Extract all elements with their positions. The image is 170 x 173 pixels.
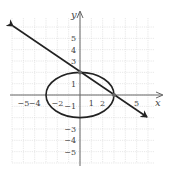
svg-text:−4: −4 [64,136,76,145]
svg-text:−2: −2 [51,99,63,108]
svg-text:−5: −5 [17,99,29,108]
y-axis-label: y [70,9,77,20]
svg-text:−5: −5 [64,148,76,157]
svg-text:2: 2 [100,99,105,108]
intersection-point [112,93,116,97]
svg-text:5: 5 [71,34,76,43]
svg-text:1: 1 [89,99,94,108]
svg-text:3: 3 [71,57,76,66]
svg-text:5: 5 [134,99,139,108]
svg-text:1: 1 [71,80,76,89]
svg-text:−1: −1 [64,102,76,111]
svg-text:−3: −3 [64,125,76,134]
graph: x y −5−4−2125 5431−1−3−4−5 [0,0,170,173]
svg-text:−4: −4 [29,99,41,108]
x-axis-label: x [155,97,161,108]
svg-text:4: 4 [71,46,76,55]
intersection-point [78,70,82,74]
x-tick-labels: −5−4−2125 [17,99,139,108]
